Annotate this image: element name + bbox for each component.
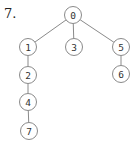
tree-node-2: 2: [20, 67, 37, 84]
tree-edges: [28, 20, 121, 123]
node-label: 4: [25, 97, 31, 108]
tree-node-7: 7: [21, 123, 38, 140]
tree-node-3: 3: [66, 39, 83, 56]
node-label: 1: [25, 42, 31, 53]
node-label: 3: [71, 42, 77, 53]
edge-0-1: [35, 20, 66, 42]
tree-nodes: 01352647: [20, 7, 130, 140]
tree-node-1: 1: [20, 39, 37, 56]
tree-node-5: 5: [113, 39, 130, 56]
tree-node-4: 4: [20, 94, 37, 111]
node-label: 6: [118, 69, 124, 80]
node-label: 0: [70, 10, 76, 21]
node-label: 5: [118, 42, 124, 53]
tree-node-6: 6: [113, 66, 130, 83]
node-label: 7: [26, 126, 32, 137]
node-label: 2: [25, 70, 31, 81]
tree-node-0: 0: [65, 7, 82, 24]
tree-diagram: 01352647: [0, 0, 140, 148]
edge-0-5: [80, 20, 114, 43]
